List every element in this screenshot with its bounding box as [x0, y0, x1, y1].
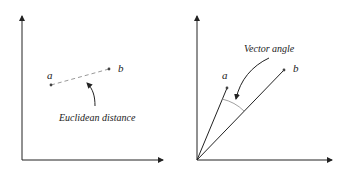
euclidean-caption: Euclidean distance — [58, 112, 136, 123]
point-b-label: b — [293, 62, 299, 74]
point-a-label: a — [222, 69, 228, 81]
point-a — [50, 84, 53, 87]
point-a — [226, 87, 229, 90]
vector-angle-caption: Vector angle — [244, 43, 295, 54]
vector-angle-panel: a b Vector angle — [197, 16, 332, 160]
point-b-label: b — [118, 62, 124, 74]
angle-arc — [222, 99, 244, 111]
euclidean-panel: a b Euclidean distance — [22, 16, 163, 160]
point-b — [283, 69, 286, 72]
euclidean-distance-line — [51, 69, 109, 85]
pointer-arrow — [87, 83, 95, 106]
diagram-canvas: a b Euclidean distance a b Vector angle — [0, 0, 355, 172]
point-a-label: a — [47, 69, 53, 81]
point-b — [108, 68, 111, 71]
vector-b — [197, 70, 284, 160]
pointer-arrow — [236, 58, 269, 99]
